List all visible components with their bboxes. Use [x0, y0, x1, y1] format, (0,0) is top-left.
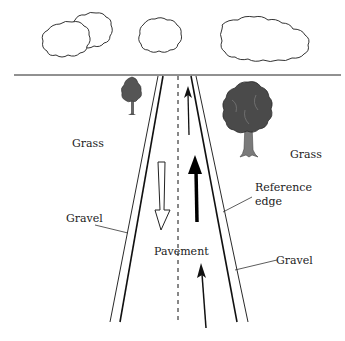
- label-reference-edge-line1: Reference: [255, 181, 312, 194]
- thin-up-arrow-far: [184, 86, 192, 135]
- tree-icon: [121, 77, 141, 102]
- cloud-right-icon: [221, 16, 310, 61]
- tree-icon: [223, 82, 272, 133]
- left-pavement-edge: [120, 76, 163, 322]
- label-pavement: Pavement: [154, 245, 209, 258]
- road-diagram: Grass Grass Reference edge Gravel Paveme…: [0, 0, 345, 341]
- thin-up-arrow-near: [197, 263, 206, 328]
- large-tree-right: [223, 82, 272, 157]
- label-gravel-right: Gravel: [276, 254, 313, 267]
- small-tree-left: [121, 77, 141, 115]
- tree-trunk: [131, 100, 134, 114]
- label-grass-left: Grass: [72, 137, 104, 150]
- arrow-down-icon: [155, 162, 170, 230]
- label-gravel-left: Gravel: [66, 212, 103, 225]
- clouds: [42, 12, 309, 61]
- cloud-center-icon: [139, 18, 182, 53]
- label-reference-edge-line2: edge: [255, 195, 282, 208]
- cloud-front-icon: [42, 21, 90, 57]
- reference-edge-leader: [223, 197, 252, 212]
- hollow-down-arrow: [155, 162, 170, 230]
- arrow-up-icon: [188, 155, 202, 174]
- road-diagram-canvas: Grass Grass Reference edge Gravel Paveme…: [0, 0, 345, 341]
- arrows: [155, 86, 206, 328]
- thick-up-arrow: [188, 155, 202, 222]
- label-grass-right: Grass: [290, 148, 322, 161]
- gravel-right-leader: [235, 260, 277, 270]
- gravel-left-leader: [95, 225, 128, 233]
